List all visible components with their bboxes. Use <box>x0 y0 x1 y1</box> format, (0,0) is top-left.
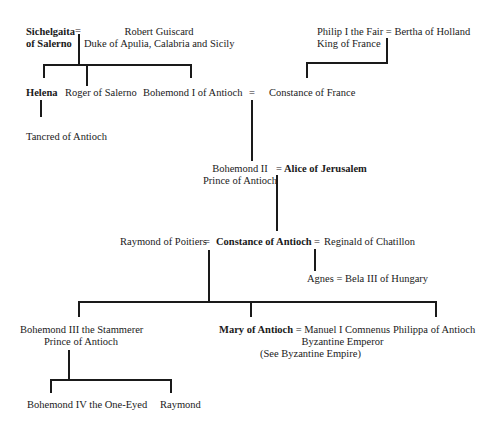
connector <box>86 64 88 86</box>
connector <box>306 62 308 78</box>
person-mary-of-antioch: Mary of Antioch <box>219 324 293 335</box>
connector <box>170 379 172 393</box>
person-manuel-i: Manuel I Comnenus <box>304 324 390 335</box>
connector <box>276 175 278 231</box>
name-line: Bohemond II <box>212 163 268 174</box>
connector <box>43 64 45 78</box>
person-raymond: Raymond <box>160 399 201 411</box>
manuel-title: Byzantine Emperor <box>280 336 405 348</box>
name-line: Philip I the Fair <box>317 26 383 37</box>
connector <box>78 301 80 317</box>
person-tancred: Tancred of Antioch <box>26 131 107 143</box>
person-bohemond-iv: Bohemond IV the One-Eyed <box>27 399 147 411</box>
connector <box>190 64 192 78</box>
name-line: Prince of Antioch <box>203 175 277 186</box>
connector <box>208 250 210 302</box>
person-mary-marriage: Mary of Antioch = Manuel I Comnenus <box>219 324 390 336</box>
person-robert-guiscard: Robert Guiscard Duke of Apulia, Calabria… <box>84 26 234 50</box>
person-bertha: Bertha of Holland <box>394 26 470 37</box>
connector <box>78 34 80 65</box>
person-bohemond-iii: Bohemond III the Stammerer Prince of Ant… <box>20 324 142 348</box>
marriage-symbol: = <box>276 163 282 175</box>
name-line: Prince of Antioch <box>44 336 118 347</box>
connector <box>306 62 388 64</box>
person-bohemond-ii: Bohemond II Prince of Antioch <box>200 163 280 187</box>
connector <box>43 64 192 66</box>
person-agnes-marriage: Agnes = Bela III of Hungary <box>307 273 428 285</box>
person-sichelgaita: Sichelgaita of Salerno <box>26 26 75 50</box>
connector <box>386 38 388 64</box>
cross-reference: (See Byzantine Empire) <box>260 348 361 360</box>
connector <box>78 301 437 303</box>
name-line: Bohemond III the Stammerer <box>20 324 143 335</box>
marriage-symbol: = <box>336 273 342 284</box>
connector <box>40 100 42 117</box>
connector <box>250 301 252 317</box>
connector <box>68 350 70 380</box>
person-constance-of-france: Constance of France <box>269 87 355 99</box>
person-agnes: Agnes <box>307 273 334 284</box>
name-line: Duke of Apulia, Calabria and Sicily <box>84 38 234 49</box>
connector <box>251 100 253 161</box>
connector <box>50 379 52 393</box>
marriage-symbol: = <box>296 324 302 335</box>
connector <box>435 301 437 317</box>
person-raymond-of-poitiers: Raymond of Poitiers <box>120 236 207 248</box>
person-constance-of-antioch: Constance of Antioch <box>216 236 312 248</box>
connector <box>50 379 172 381</box>
person-bela-iii: Bela III of Hungary <box>345 273 428 284</box>
person-roger-of-salerno: Roger of Salerno <box>65 87 137 99</box>
name-line: King of France <box>317 38 381 49</box>
person-philip-i: Philip I the Fair = Bertha of Holland Ki… <box>317 26 470 50</box>
marriage-symbol: = <box>204 236 210 248</box>
person-helena: Helena <box>26 87 58 99</box>
person-reginald-of-chatillon: Reginald of Chatillon <box>324 236 415 248</box>
marriage-symbol: = <box>314 236 320 248</box>
connector <box>314 249 316 271</box>
person-philippa-of-antioch: Philippa of Antioch <box>393 324 475 336</box>
name-line: Robert Guiscard <box>124 26 193 37</box>
name-line: Sichelgaita <box>26 26 75 37</box>
name-line: of Salerno <box>26 38 72 49</box>
person-bohemond-i: Bohemond I of Antioch <box>143 87 242 99</box>
marriage-symbol: = <box>386 26 392 37</box>
marriage-symbol: = <box>249 87 255 99</box>
person-alice-of-jerusalem: Alice of Jerusalem <box>284 163 367 175</box>
